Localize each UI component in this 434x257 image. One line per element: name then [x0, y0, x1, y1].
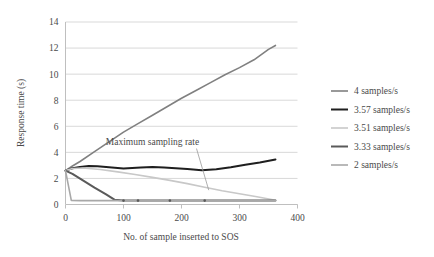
y-tick-label: 2	[54, 174, 59, 184]
legend-label: 3.33 samples/s	[354, 142, 410, 152]
y-axis-title: Response time (s)	[16, 79, 27, 147]
y-tick-label: 6	[54, 122, 59, 132]
x-tick-label: 300	[232, 213, 247, 223]
annotation-label: Maximum sampling rate	[106, 137, 199, 147]
data-point-marker	[137, 199, 140, 202]
chart-figure: 02468101214 0100200300400 Maximum sampli…	[0, 0, 434, 257]
x-tick-label: 400	[290, 213, 305, 223]
y-tick-label: 10	[49, 70, 59, 80]
x-axis-title: No. of sample inserted to SOS	[123, 232, 239, 242]
y-tick-label: 0	[54, 200, 59, 210]
data-point-marker	[203, 199, 206, 202]
legend-label: 3.51 samples/s	[354, 123, 410, 133]
y-tick-label: 8	[54, 96, 59, 106]
x-tick-label: 200	[174, 213, 189, 223]
legend-label: 2 samples/s	[354, 160, 398, 170]
legend-label: 3.57 samples/s	[354, 105, 410, 115]
line-chart: 02468101214 0100200300400 Maximum sampli…	[0, 0, 434, 257]
x-tick-label: 100	[116, 213, 131, 223]
data-point-marker	[169, 199, 172, 202]
x-tick-label: 0	[63, 213, 68, 223]
data-point-marker	[122, 199, 125, 202]
legend-label: 4 samples/s	[354, 86, 398, 96]
y-tick-label: 14	[49, 17, 59, 27]
y-tick-label: 12	[49, 43, 59, 53]
y-tick-label: 4	[54, 148, 59, 158]
